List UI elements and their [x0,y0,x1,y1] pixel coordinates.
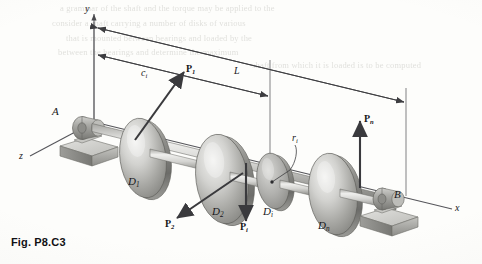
force-p1-label: P1 [186,64,195,75]
dimension-ci-label: ci [141,68,147,79]
dimension-line-l [98,28,404,102]
force-pi-label: Pi [240,222,248,233]
force-p2-label: P2 [165,219,174,230]
figure-canvas: a grammar of the shaft and the torque ma… [0,0,482,264]
dimension-l-label: L [234,66,240,76]
bearing-b-label: B [394,189,401,200]
y-axis-label: y [85,4,89,14]
dimension-line-ci [98,55,268,96]
bearing-a-label: A [52,106,59,117]
bearing-a-support [60,117,118,167]
disk-1-label: D1 [128,176,140,189]
force-pn-label: Pn [364,114,374,125]
disk-i-label: Di [263,206,273,219]
x-axis-label: x [455,203,459,213]
axis-arrowheads [91,14,96,21]
disk-n-label: Dn [318,220,330,233]
disk-i-shape [253,145,297,213]
figure-caption: Fig. P8.C3 [11,236,66,248]
disk-2-label: D2 [212,206,224,219]
radius-ri-label: ri [292,133,298,144]
z-axis-label: z [19,151,23,161]
